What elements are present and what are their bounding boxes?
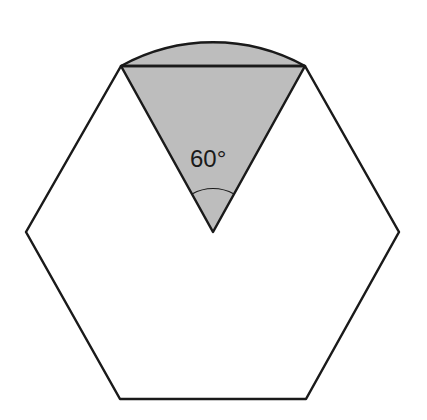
shaded-sector bbox=[121, 42, 305, 232]
angle-label: 60° bbox=[190, 145, 226, 172]
hexagon-diagram: 60° bbox=[0, 0, 427, 420]
